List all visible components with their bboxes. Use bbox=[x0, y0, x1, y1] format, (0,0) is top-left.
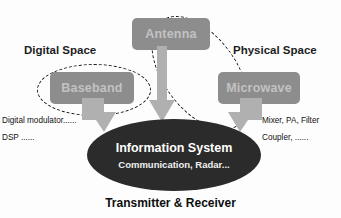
region-label-physical-space: Physical Space bbox=[233, 44, 317, 56]
annotation-dsp: DSP ...... bbox=[2, 133, 35, 142]
diagram-title: Transmitter & Receiver bbox=[0, 196, 341, 210]
annotation-digital-modulator: Digital modulator...... bbox=[2, 116, 77, 125]
diagram-canvas: Digital Space Physical Space Antenna Bas… bbox=[0, 0, 341, 218]
module-label-microwave: Microwave bbox=[226, 81, 292, 95]
module-label-baseband: Baseband bbox=[61, 81, 122, 95]
annotation-mixer-pa-filter: Mixer, PA, Filter bbox=[262, 116, 319, 125]
region-label-digital-space: Digital Space bbox=[24, 44, 96, 56]
core-subtitle: Communication, Radar... bbox=[118, 159, 229, 170]
module-label-antenna: Antenna bbox=[145, 27, 196, 41]
arrow-antenna-to-core bbox=[147, 46, 177, 126]
core-ellipse-information-system[interactable]: Information System Communication, Radar.… bbox=[87, 119, 261, 191]
core-title: Information System bbox=[116, 141, 233, 155]
annotation-coupler: Coupler, ...... bbox=[262, 133, 308, 142]
